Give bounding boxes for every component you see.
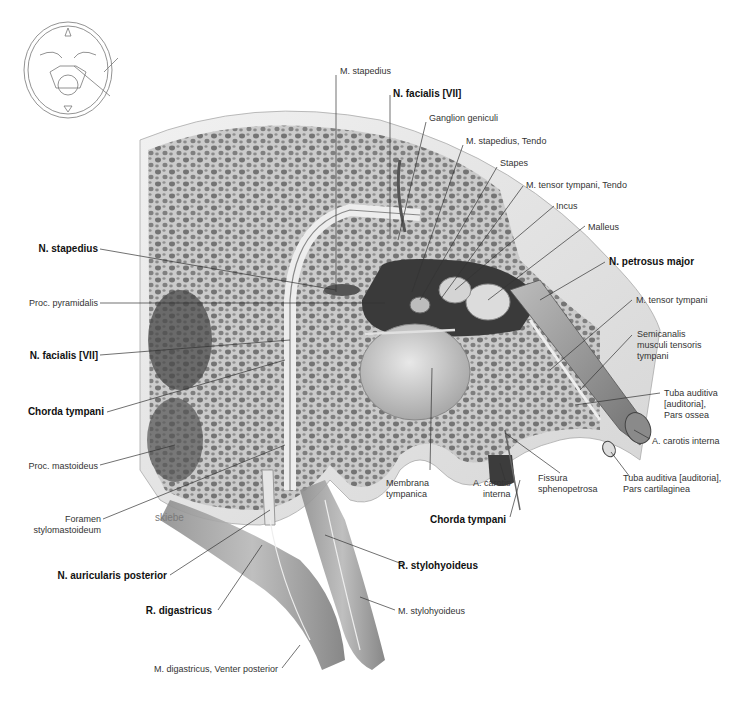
label-malleus: Malleus: [588, 222, 619, 233]
label-chorda-tympani-bottom: Chorda tympani: [430, 514, 506, 525]
label-stapes: Stapes: [500, 158, 528, 169]
label-m-tensor-tympani-tendo: M. tensor tympani, Tendo: [526, 180, 627, 191]
label-tuba-cartilaginea: Tuba auditiva [auditoria], Pars cartilag…: [623, 473, 721, 495]
label-r-digastricus: R. digastricus: [60, 605, 212, 616]
stapedius-muscle: [324, 284, 360, 296]
label-m-stapedius: M. stapedius: [340, 66, 391, 77]
label-n-facialis-top: N. facialis [VII]: [393, 88, 461, 99]
skull-base-inset: [24, 22, 118, 118]
label-semicanalis: Semicanalis musculi tensoris tympani: [637, 329, 702, 362]
anatomy-figure: skiebe M. stapedius N. facialis [VII] Ga…: [0, 0, 740, 715]
artist-signature: skiebe: [155, 512, 184, 523]
label-chorda-tympani-left: Chorda tympani: [0, 406, 104, 417]
label-m-stylohyoideus: M. stylohyoideus: [398, 606, 465, 617]
label-n-facialis-left: N. facialis [VII]: [0, 350, 98, 361]
label-m-stapedius-tendo: M. stapedius, Tendo: [466, 136, 546, 147]
label-a-carotis-interna-right: A. carotis interna: [652, 436, 720, 447]
label-ganglion-geniculi: Ganglion geniculi: [429, 113, 498, 124]
label-foramen-stylomastoideum: Foramen stylomastoideum: [0, 514, 101, 536]
label-incus: Incus: [556, 201, 578, 212]
label-a-carotis-interna-mid: A. carotis interna: [473, 478, 511, 500]
malleus-shape: [466, 284, 510, 320]
label-tuba-ossea: Tuba auditiva [auditoria], Pars ossea: [664, 388, 718, 421]
label-n-auricularis-posterior: N. auricularis posterior: [0, 570, 167, 581]
label-r-stylohyoideus: R. stylohyoideus: [398, 560, 478, 571]
label-fissura-sphenopetrosa: Fissura sphenopetrosa: [538, 473, 598, 495]
label-proc-pyramidalis: Proc. pyramidalis: [0, 298, 98, 309]
label-m-tensor-tympani: M. tensor tympani: [636, 295, 708, 306]
label-n-stapedius: N. stapedius: [10, 243, 98, 254]
label-proc-mastoideus: Proc. mastoideus: [0, 461, 98, 472]
tympanic-membrane: [360, 324, 470, 420]
label-membrana-tympanica: Membrana tympanica: [386, 478, 429, 500]
mastoid-cells: [148, 290, 212, 390]
label-m-digastricus-venter-posterior: M. digastricus, Venter posterior: [100, 664, 278, 675]
label-n-petrosus-major: N. petrosus major: [609, 256, 694, 267]
